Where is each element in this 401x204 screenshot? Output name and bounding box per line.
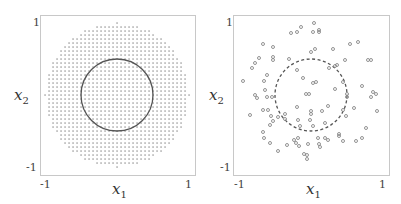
x-axis-label: x1 bbox=[112, 180, 127, 200]
y-axis-label-sub: 2 bbox=[217, 95, 223, 106]
y-axis-label: x2 bbox=[209, 86, 224, 106]
plot-frame bbox=[234, 16, 390, 176]
x-axis-label-sub: 1 bbox=[314, 189, 320, 200]
random-points bbox=[242, 22, 379, 161]
x-tick-neg: -1 bbox=[40, 178, 51, 191]
x-tick-neg: -1 bbox=[234, 178, 245, 191]
y-axis-label: x2 bbox=[14, 86, 29, 106]
x-tick-pos: 1 bbox=[185, 178, 192, 191]
x-axis-label: x1 bbox=[306, 180, 321, 200]
x-tick-pos: 1 bbox=[379, 178, 386, 191]
panel-grid-points: 1 -1 -1 1 x1 x2 bbox=[0, 0, 200, 204]
y-tick-pos: 1 bbox=[33, 16, 40, 29]
y-axis-label-sub: 2 bbox=[22, 95, 28, 106]
x-axis-label-sub: 1 bbox=[120, 189, 126, 200]
panel-random-points: 1 -1 -1 1 x1 x2 bbox=[200, 0, 400, 204]
y-tick-neg: -1 bbox=[220, 161, 231, 174]
y-tick-neg: -1 bbox=[26, 161, 37, 174]
plot-frame bbox=[41, 16, 196, 176]
y-tick-pos: 1 bbox=[226, 16, 233, 29]
grid-points bbox=[44, 22, 189, 167]
